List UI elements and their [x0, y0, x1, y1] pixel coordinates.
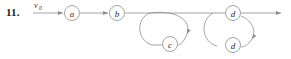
node-d-top-label: d [231, 9, 236, 19]
node-a-label: a [70, 9, 75, 19]
start-label-subscript: 0 [39, 5, 42, 11]
node-d-bottom-label: d [231, 41, 236, 51]
edge-loop-c-right-bottom [178, 34, 187, 45]
node-c-label: c [168, 40, 172, 50]
edge-loop-c-right-top [150, 12, 188, 34]
edge-loop-d-right-top [241, 16, 254, 39]
edge-loop-c-left [140, 13, 162, 45]
start-label: v [34, 1, 38, 10]
walk-diagram: v 0 a b c d d [0, 0, 291, 59]
edge-loop-d-right-bottom [241, 39, 252, 47]
figure-container: 11. v 0 a b [0, 0, 291, 59]
edge-loop-d-left [204, 13, 217, 46]
node-b-label: b [115, 9, 120, 19]
